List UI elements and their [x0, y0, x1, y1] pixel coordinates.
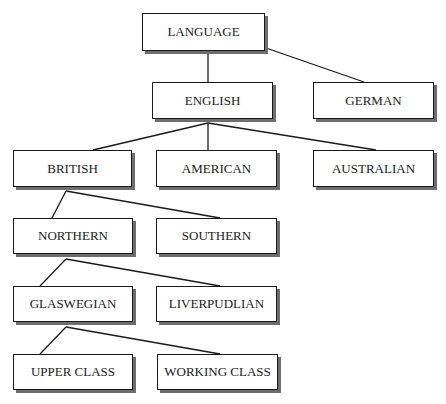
edge-northern-liverpudlian: [66, 259, 220, 286]
edge-northern-glaswegian: [40, 259, 66, 286]
node-german: GERMAN: [313, 82, 434, 119]
node-working-class: WORKING CLASS: [157, 354, 278, 390]
connector-lines: [0, 0, 446, 404]
node-language: LANGUAGE: [142, 13, 265, 51]
node-glaswegian: GLASWEGIAN: [13, 286, 133, 322]
node-northern: NORTHERN: [13, 218, 133, 254]
node-australian: AUSTRALIAN: [313, 150, 434, 187]
edge-language-german: [266, 48, 364, 82]
node-english: ENGLISH: [152, 82, 273, 119]
node-american: AMERICAN: [156, 150, 277, 187]
edge-glaswegian-upper-class: [40, 327, 66, 354]
language-tree-diagram: LANGUAGE ENGLISH GERMAN BRITISH AMERICAN…: [0, 0, 446, 404]
node-upper-class: UPPER CLASS: [13, 354, 133, 390]
edge-english-british: [93, 123, 208, 150]
node-liverpudlian: LIVERPUDLIAN: [156, 286, 277, 322]
node-british: BRITISH: [13, 150, 132, 187]
edge-british-northern: [52, 191, 66, 218]
edge-glaswegian-working-class: [66, 327, 220, 354]
edge-english-australian: [208, 123, 376, 150]
node-southern: SOUTHERN: [156, 218, 277, 254]
edge-british-southern: [66, 191, 220, 218]
